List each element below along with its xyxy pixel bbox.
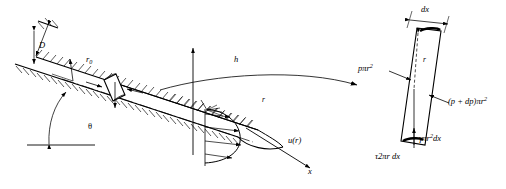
dx-length-label: dx bbox=[421, 5, 429, 14]
velocity-vector bbox=[205, 127, 239, 131]
wall-radius-label: r0 bbox=[86, 55, 92, 65]
pipe-upper-wall-group bbox=[36, 50, 258, 130]
velocity-vector bbox=[205, 141, 241, 145]
diameter-label: D bbox=[39, 41, 45, 50]
element-free-body-group bbox=[389, 11, 449, 148]
x-axis-label: x bbox=[308, 167, 312, 176]
pressure-downstream-label: (p + dp)πr2 bbox=[448, 96, 487, 105]
angle-theta-group bbox=[27, 92, 95, 145]
x-axis-line bbox=[246, 128, 310, 168]
fluid-mechanics-figure: D r0 θ h x r u(r) dx r pπr2 (p + dp)πr2 … bbox=[0, 0, 506, 189]
figure-vector-canvas bbox=[0, 0, 506, 189]
radius-r0-arrow bbox=[70, 59, 73, 81]
element-radius-label: r bbox=[423, 56, 426, 64]
velocity-profile-group bbox=[201, 100, 241, 166]
radial-coordinate-label: r bbox=[262, 96, 265, 104]
pipe-far-wall-group bbox=[118, 84, 258, 130]
shear-stress-label: τ2πr dx bbox=[375, 152, 400, 161]
velocity-profile-label: u(r) bbox=[288, 136, 301, 145]
angle-theta-label: θ bbox=[88, 122, 92, 131]
h-axis-label: h bbox=[234, 55, 238, 64]
angle-theta-arc bbox=[49, 92, 66, 144]
x-axis-group bbox=[246, 128, 310, 168]
pipe-far-wall-line bbox=[118, 84, 258, 130]
element-left-pointer bbox=[86, 82, 102, 87]
weight-label: γπr2dx bbox=[419, 133, 441, 142]
velocity-vector bbox=[205, 154, 232, 158]
pipe-outlet-ellipse-upper bbox=[258, 130, 283, 147]
element-rectangle bbox=[401, 28, 441, 145]
pressure-upstream-label: pπr2 bbox=[358, 63, 373, 72]
element-magnify-leader-arrow bbox=[160, 75, 357, 90]
fluid-element-body bbox=[104, 74, 125, 101]
dx-dimension-arrow bbox=[410, 20, 448, 24]
pressure-upstream-arrow bbox=[389, 71, 411, 80]
